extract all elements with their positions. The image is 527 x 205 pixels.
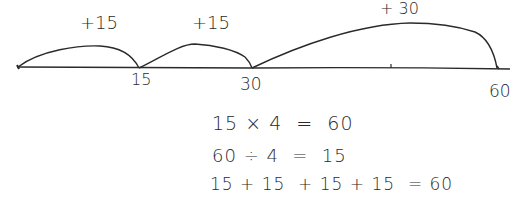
number-line-axis <box>17 67 510 69</box>
jump-arc-3 <box>252 23 497 68</box>
jump-arc-2 <box>139 44 252 68</box>
tick-label-60: 60 <box>489 81 511 101</box>
jump-label-1: +15 <box>80 12 118 33</box>
equation-multiplication: 15 × 4 = 60 <box>212 112 354 134</box>
tick-label-30: 30 <box>240 74 262 94</box>
jump-label-2: +15 <box>192 12 230 33</box>
jump-label-3: + 30 <box>380 0 419 18</box>
equation-repeated-addition: 15 + 15 + 15 + 15 = 60 <box>210 174 453 194</box>
jump-arc-1 <box>18 46 139 68</box>
equation-division: 60 ÷ 4 = 15 <box>212 145 347 166</box>
tick-label-15: 15 <box>131 70 151 89</box>
